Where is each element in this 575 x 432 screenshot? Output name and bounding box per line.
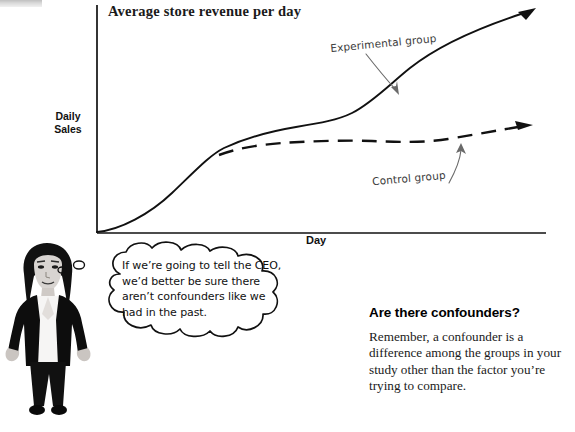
experimental-group-curve (97, 13, 524, 232)
left-shoe (29, 405, 45, 415)
chart-title: Average store revenue per day (108, 3, 301, 20)
thought-dot-large (74, 261, 85, 269)
experimental-label-leader (366, 54, 396, 90)
thought-bubble-text: If we’re going to tell the CEO, we’d bet… (122, 258, 288, 320)
experimental-curve-arrowhead (518, 8, 536, 20)
trousers (30, 362, 66, 406)
chart-figure: Average store revenue per day Daily Sale… (0, 0, 575, 250)
right-shoe (51, 405, 67, 415)
y-axis-label: Daily Sales (44, 110, 92, 135)
thought-dot-small (58, 267, 66, 273)
control-curve-arrowhead (515, 121, 533, 130)
control-group-curve (219, 127, 518, 155)
confounders-note: Are there confounders? Remember, a confo… (369, 305, 569, 395)
confounders-body: Remember, a confounder is a difference a… (369, 329, 569, 395)
control-label-leader (449, 150, 461, 183)
illustration-canvas: Average store revenue per day Daily Sale… (0, 0, 575, 432)
left-eye (38, 265, 44, 268)
thought-bubble: If we’re going to tell the CEO, we’d bet… (86, 240, 308, 342)
x-axis-label: Day (306, 234, 326, 246)
confounders-heading: Are there confounders? (369, 305, 569, 320)
